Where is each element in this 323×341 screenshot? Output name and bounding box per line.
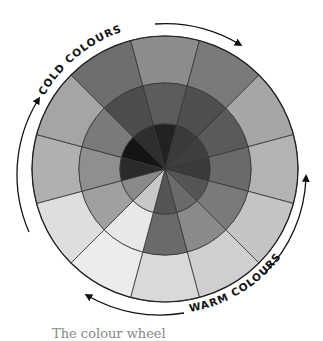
figure-caption: The colour wheel [52, 326, 166, 341]
colour-wheel [32, 36, 298, 302]
